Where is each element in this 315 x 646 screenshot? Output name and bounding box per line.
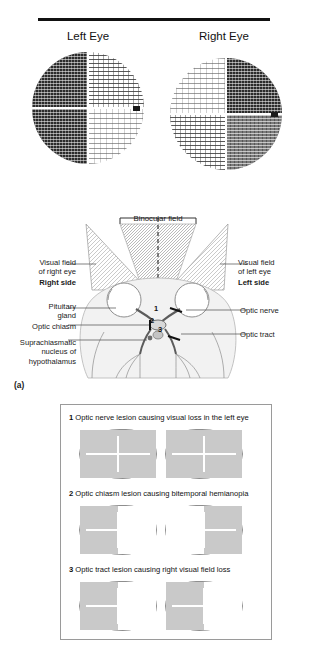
blob-horizontal-meridian: [86, 529, 150, 531]
visual-field-pair: [61, 579, 273, 633]
perimetry-quadrant-superotemporal: [170, 58, 226, 114]
panel-label-a: (a): [14, 380, 24, 390]
blob-outline: [165, 581, 243, 631]
lesion-marker-2-label: 2: [150, 316, 154, 325]
visual-field-left-eye-label: Visual fieldof left eye: [238, 258, 302, 277]
blob-outline: [79, 505, 157, 555]
perimetry-quadrant-inferotemporal: [88, 108, 144, 164]
blob-outline: [79, 429, 157, 479]
lesion-marker-1-label: 1: [154, 304, 158, 313]
lesion-text: Optic nerve lesion causing visual loss i…: [75, 413, 248, 422]
blob-horizontal-meridian: [86, 453, 150, 455]
blob-horizontal-meridian: [86, 605, 150, 607]
left-side-label: Left side: [238, 278, 302, 287]
visual-field-blob-right: [165, 429, 243, 479]
suprachiasmatic-nucleus-label: Suprachiasmaticnucleus ofhypothalamus: [2, 338, 76, 366]
suprachiasmatic-nucleus-shape: [148, 336, 153, 341]
perimetry-quadrant-inferotemporal: [170, 114, 226, 170]
optic-chiasm-label: Optic chiasm: [8, 322, 76, 331]
visual-field-pair: [61, 427, 273, 481]
blob-horizontal-meridian: [172, 605, 236, 607]
perimetry-plot-left-eye: [32, 52, 144, 164]
right-eye-heading: Right Eye: [172, 30, 276, 42]
top-divider: [38, 18, 270, 21]
visual-field-blob-right: [165, 505, 243, 555]
lesion-caption: 2 Optic chiasm lesion causing bitemporal…: [61, 489, 273, 499]
lesion-row: 3 Optic tract lesion causing right visua…: [61, 565, 273, 633]
perimetry-quadrant-superonasal: [226, 58, 282, 114]
lesion-outcomes-panel: 1 Optic nerve lesion causing visual loss…: [60, 404, 272, 640]
visual-field-right-eye-label: Visual fieldof right eye: [14, 258, 76, 277]
perimetry-quadrant-superonasal: [32, 52, 88, 108]
visual-field-pair: [61, 503, 273, 557]
binocular-field-label: Binocular field: [118, 214, 198, 223]
lesion-caption: 3 Optic tract lesion causing right visua…: [61, 565, 273, 575]
right-eye-globe: [107, 283, 141, 317]
lesion-number: 1: [69, 413, 73, 422]
right-side-label: Right side: [14, 278, 76, 287]
lesion-number: 2: [69, 489, 73, 498]
visual-field-blob-left: [79, 581, 157, 631]
perimetry-plot-right-eye: [170, 58, 282, 170]
perimetry-quadrant-inferonasal: [226, 114, 282, 170]
fixation-marker-icon: [133, 106, 140, 111]
blob-outline: [165, 429, 243, 479]
lesion-marker-3-label: 3: [158, 325, 162, 334]
lesion-row: 1 Optic nerve lesion causing visual loss…: [61, 413, 273, 481]
lesion-row: 2 Optic chiasm lesion causing bitemporal…: [61, 489, 273, 557]
blob-horizontal-meridian: [172, 529, 236, 531]
lesion-text: Optic chiasm lesion causing bitemporal h…: [75, 489, 248, 498]
pituitary-gland-label: Pituitarygland: [8, 302, 76, 321]
lesion-number: 3: [69, 565, 73, 574]
blob-outline: [165, 505, 243, 555]
lesion-text: Optic tract lesion causing right visual …: [75, 565, 230, 574]
perimetry-horizontal-meridian: [32, 107, 144, 109]
optic-nerve-label: Optic nerve: [240, 306, 310, 315]
visual-field-blob-left: [79, 429, 157, 479]
left-eye-heading: Left Eye: [36, 30, 140, 42]
lesion-caption: 1 Optic nerve lesion causing visual loss…: [61, 413, 273, 423]
blob-horizontal-meridian: [172, 453, 236, 455]
blob-outline: [79, 581, 157, 631]
perimetry-quadrant-superotemporal: [88, 52, 144, 108]
perimetry-horizontal-meridian: [170, 113, 282, 115]
visual-field-blob-left: [79, 505, 157, 555]
visual-field-blob-right: [165, 581, 243, 631]
perimetry-quadrant-inferonasal: [32, 108, 88, 164]
fixation-marker-icon: [271, 112, 278, 117]
optic-tract-label: Optic tract: [240, 330, 310, 339]
